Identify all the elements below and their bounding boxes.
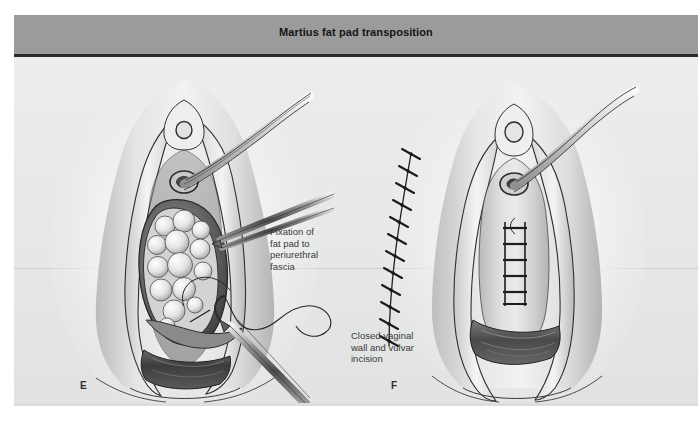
- page-title: Martius fat pad transposition: [14, 26, 698, 38]
- figure-bottom-edge: [14, 403, 698, 406]
- clitoris: [505, 122, 523, 142]
- fat-pad-graft: [144, 208, 219, 339]
- illustration-canvas: Fixation of fat pad to periurethral fasc…: [14, 58, 698, 403]
- panel-label-e: E: [80, 380, 87, 391]
- panel-label-f: F: [391, 380, 397, 391]
- callout-closed-incision: Closed vaginal wall and vulvar incision: [351, 330, 439, 365]
- figure-page: Martius fat pad transposition: [0, 0, 698, 425]
- clitoris: [176, 122, 192, 139]
- callout-fat-pad-fixation: Fixation of fat pad to periurethral fasc…: [270, 226, 348, 272]
- figure-title-bar: Martius fat pad transposition: [14, 15, 698, 57]
